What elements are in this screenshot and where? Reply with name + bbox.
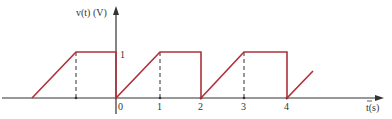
- x-tick-label-1: 1: [157, 101, 162, 112]
- tick-t-minus-1: [75, 97, 78, 100]
- y-axis-label: v(t) (V): [76, 7, 107, 19]
- tick-t3: [243, 97, 246, 100]
- tick-t1: [159, 97, 162, 100]
- level-one-label: 1: [120, 49, 125, 60]
- x-axis-label: t(s): [366, 102, 379, 114]
- x-tick-label-4: 4: [284, 101, 289, 112]
- waveform-trace: [32, 52, 313, 98]
- waveform-diagram: v(t) (V) 1 0 1 2 3 4 t(s): [0, 0, 392, 119]
- time-axis-arrow-icon: [375, 95, 384, 101]
- x-tick-label-2: 2: [198, 101, 203, 112]
- voltage-axis-arrow-icon: [113, 6, 119, 15]
- x-tick-label-0: 0: [118, 101, 123, 112]
- x-tick-label-3: 3: [241, 101, 246, 112]
